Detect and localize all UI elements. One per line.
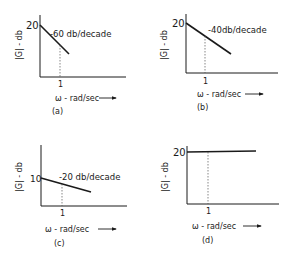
x-tick-label: 1 — [203, 77, 208, 86]
panel-caption: (a) — [52, 107, 63, 116]
panel-caption: (b) — [197, 103, 208, 112]
panel-b: 20 1 -40db/decade |G| - db ω - rad/sec (… — [160, 14, 278, 112]
x-tick-label: 1 — [58, 80, 63, 89]
x-axis-label: ω - rad/sec — [55, 94, 99, 103]
panel-caption: (c) — [54, 239, 65, 248]
panel-d: 20 1 |G| - db ω - rad/sec (d) — [161, 146, 279, 245]
x-tick-label: 1 — [60, 209, 65, 218]
x-axis-label: ω - rad/sec — [197, 90, 241, 99]
y-tick-label: 20 — [26, 20, 39, 31]
y-tick-label: 10 — [30, 174, 42, 184]
y-axis-label: |G| - db — [161, 162, 170, 192]
x-axis-label: ω - rad/sec — [192, 222, 236, 231]
slope-annotation: -60 db/decade — [50, 29, 111, 39]
panel-c: 10 1 -20 db/decade |G| - db ω - rad/sec … — [15, 145, 127, 248]
y-axis-label: |G| - db — [15, 162, 24, 192]
slope-annotation: -40db/decade — [208, 25, 267, 35]
panel-caption: (d) — [202, 236, 213, 245]
y-axis-label: |G| - db — [160, 30, 169, 60]
slope-annotation: -20 db/decade — [59, 172, 120, 182]
y-axis-label: |G| - db — [15, 30, 24, 60]
x-tick-label: 1 — [206, 207, 211, 216]
bode-diagram-figure: 20 1 -60 db/decade |G| - db ω - rad/sec … — [0, 0, 290, 262]
x-axis-label: ω - rad/sec — [45, 225, 89, 234]
magnitude-line — [187, 151, 256, 152]
y-tick-label: 20 — [172, 18, 185, 29]
y-tick-label: 20 — [173, 147, 186, 158]
panel-a: 20 1 -60 db/decade |G| - db ω - rad/sec … — [15, 15, 126, 116]
